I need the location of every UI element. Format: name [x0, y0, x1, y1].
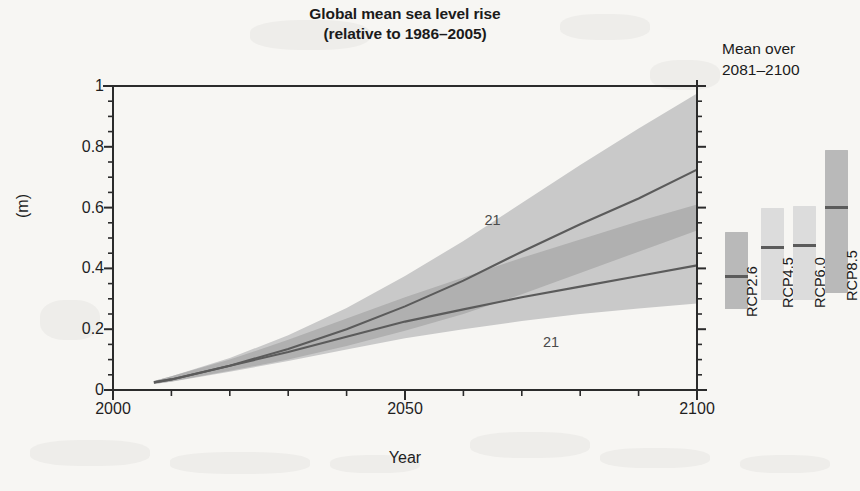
y-tick-label: 0.8 [58, 138, 104, 156]
rcp-median-marker-RCP4.5 [761, 246, 784, 249]
x-tick-label: 2100 [652, 400, 742, 418]
x-tick-label: 2050 [360, 400, 450, 418]
side-panel-title-line1: Mean over [722, 38, 800, 59]
x-axis-label: Year [113, 449, 697, 467]
y-tick-label: 1 [58, 77, 104, 95]
model-count-annotation: 21 [543, 334, 559, 350]
model-count-annotation: 21 [485, 212, 501, 228]
rcp-median-marker-RCP6.0 [793, 244, 816, 247]
y-tick-label: 0.4 [58, 259, 104, 277]
y-tick-label: 0.6 [58, 199, 104, 217]
side-panel-title-line2: 2081–2100 [722, 59, 800, 80]
rcp-bar-label-RCP8.5: RCP8.5 [844, 250, 860, 301]
y-tick-label: 0 [58, 381, 104, 399]
y-axis-label: (m) [14, 194, 32, 218]
x-tick-label: 2000 [68, 400, 158, 418]
y-tick-label: 0.2 [58, 320, 104, 338]
rcp-median-marker-RCP8.5 [825, 206, 848, 209]
rcp-bar-label-RCP2.6: RCP2.6 [744, 267, 760, 318]
side-panel-title: Mean over2081–2100 [722, 38, 800, 80]
band-overlap [154, 94, 697, 384]
